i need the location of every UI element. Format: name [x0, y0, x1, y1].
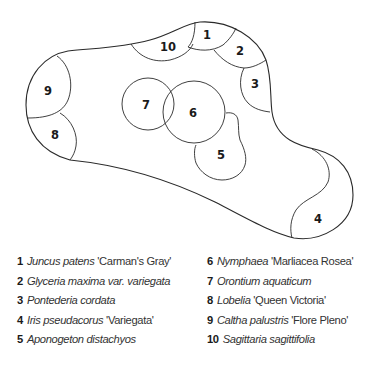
- zone-label-5: 5: [217, 148, 225, 162]
- legend-item: 2Glyceria maxima var. variegata: [17, 272, 171, 292]
- legend-number: 9: [207, 314, 213, 326]
- legend-item: 10Sagittaria sagittifolia: [207, 330, 353, 350]
- legend-number: 7: [207, 275, 213, 287]
- zone-label-3: 3: [251, 77, 259, 91]
- legend-item: 1Juncus patens 'Carman's Gray': [17, 252, 171, 272]
- zone-label-7: 7: [142, 98, 150, 112]
- legend-scientific-name: Orontium aquaticum: [217, 275, 311, 287]
- zone-5-boundary: [195, 113, 246, 180]
- legend-scientific-name: Pontederia cordata: [27, 294, 115, 306]
- legend-number: 8: [207, 294, 213, 306]
- legend-item: 6Nymphaea 'Marliacea Rosea': [207, 252, 353, 272]
- legend-item: 9Caltha palustris 'Flore Pleno': [207, 311, 353, 331]
- legend-cultivar: 'Queen Victoria': [251, 294, 326, 306]
- legend-cultivar: 'Flore Pleno': [288, 314, 348, 326]
- zone-label-6: 6: [189, 106, 197, 120]
- zone-label-9: 9: [44, 84, 52, 98]
- legend-item: 3Pontederia cordata: [17, 291, 171, 311]
- legend-number: 3: [17, 294, 23, 306]
- legend-item: 4Iris pseudacorus 'Variegata': [17, 311, 171, 331]
- legend-scientific-name: Iris pseudacorus: [27, 314, 103, 326]
- legend-scientific-name: Caltha palustris: [217, 314, 289, 326]
- legend-number: 2: [17, 275, 23, 287]
- pond-plan-diagram: 1 2 3 4 5 6 7 8 9 10: [0, 0, 373, 245]
- pond-outline: [26, 22, 353, 239]
- legend-cultivar: 'Variegata': [103, 314, 153, 326]
- legend-column-2: 6Nymphaea 'Marliacea Rosea' 7Orontium aq…: [207, 252, 353, 350]
- legend-number: 6: [207, 255, 213, 267]
- zone-label-10: 10: [160, 40, 176, 54]
- zone-label-4: 4: [314, 212, 322, 226]
- legend-scientific-name: Nymphaea: [217, 255, 268, 267]
- legend-item: 8Lobelia 'Queen Victoria': [207, 291, 353, 311]
- legend-scientific-name: Glyceria maxima var. variegata: [27, 275, 170, 287]
- legend-column-1: 1Juncus patens 'Carman's Gray' 2Glyceria…: [17, 252, 171, 350]
- zone-4-boundary: [291, 149, 329, 238]
- legend-scientific-name: Juncus patens: [27, 255, 95, 267]
- legend-scientific-name: Aponogeton distachyos: [27, 333, 136, 345]
- legend-number: 1: [17, 255, 23, 267]
- legend-item: 5Aponogeton distachyos: [17, 330, 171, 350]
- zone-label-1: 1: [203, 28, 211, 42]
- legend-cultivar: 'Marliacea Rosea': [268, 255, 353, 267]
- zone-label-8: 8: [51, 128, 59, 142]
- legend-scientific-name: Lobelia: [217, 294, 251, 306]
- legend-number: 10: [207, 333, 219, 345]
- zone-8-boundary: [60, 113, 76, 160]
- legend-number: 5: [17, 333, 23, 345]
- zone-label-2: 2: [236, 44, 244, 58]
- legend-scientific-name: Sagittaria sagittifolia: [223, 333, 315, 345]
- legend-number: 4: [17, 314, 23, 326]
- legend-item: 7Orontium aquaticum: [207, 272, 353, 292]
- legend-cultivar: 'Carman's Gray': [94, 255, 171, 267]
